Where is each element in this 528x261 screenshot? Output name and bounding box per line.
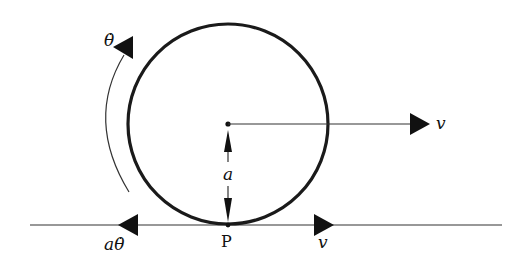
- contact-translation-label: v: [318, 232, 328, 252]
- rolling-wheel-diagram: v a P v aθ̇ θ̇: [0, 0, 528, 261]
- contact-rotation-label: aθ̇: [104, 234, 124, 254]
- contact-point-label: P: [221, 232, 232, 251]
- radius-label: a: [223, 164, 233, 184]
- center-velocity-label: v: [436, 113, 446, 133]
- angular-velocity-label: θ̇: [104, 30, 114, 50]
- contact-rotation-arrow: [118, 214, 138, 236]
